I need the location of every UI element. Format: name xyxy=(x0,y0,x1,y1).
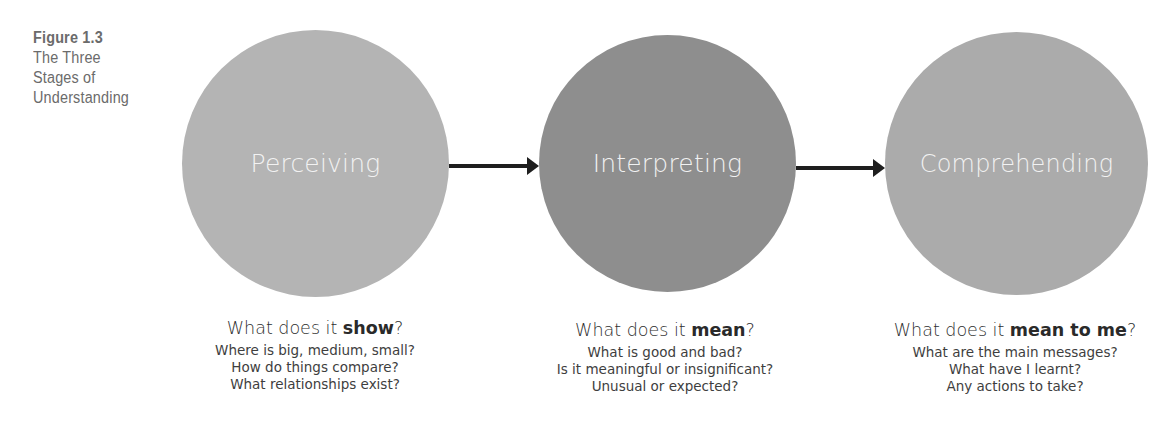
stage-detail: Unusual or expected? xyxy=(530,378,800,395)
stage-question: What does it mean to me? xyxy=(870,320,1160,340)
stage-question: What does it show? xyxy=(180,318,450,338)
stage-label: Interpreting xyxy=(593,149,743,178)
stage-detail: Any actions to take? xyxy=(870,378,1160,395)
question-suffix: ? xyxy=(746,320,755,340)
stage-circle-perceiving: Perceiving xyxy=(182,30,449,297)
question-emphasis: show xyxy=(343,318,394,338)
stage-detail: What is good and bad? xyxy=(530,344,800,361)
stage-label: Comprehending xyxy=(920,150,1113,178)
figure-title-line: The Three xyxy=(33,48,129,68)
stage-detail: How do things compare? xyxy=(180,359,450,376)
stage-questions-comprehending: What does it mean to me? What are the ma… xyxy=(870,320,1160,395)
stage-detail: What are the main messages? xyxy=(870,344,1160,361)
stage-circle-comprehending: Comprehending xyxy=(885,32,1148,295)
arrow-head xyxy=(873,159,885,177)
stage-circle-interpreting: Interpreting xyxy=(539,35,796,292)
figure-title-line: Understanding xyxy=(33,88,129,108)
question-prefix: What does it xyxy=(894,320,1010,340)
figure-label: Figure 1.3 xyxy=(33,28,129,48)
stage-detail: What relationships exist? xyxy=(180,376,450,393)
figure-title-line: Stages of xyxy=(33,68,129,88)
stage-detail: What have I learnt? xyxy=(870,361,1160,378)
arrow-shaft xyxy=(796,166,874,170)
arrow-shaft xyxy=(449,164,529,168)
question-emphasis: mean to me xyxy=(1010,320,1127,340)
question-suffix: ? xyxy=(1127,320,1136,340)
stage-questions-interpreting: What does it mean? What is good and bad?… xyxy=(530,320,800,395)
question-emphasis: mean xyxy=(691,320,745,340)
arrow-right-icon xyxy=(449,156,539,176)
stage-detail: Where is big, medium, small? xyxy=(180,342,450,359)
question-prefix: What does it xyxy=(227,318,343,338)
stage-detail: Is it meaningful or insignificant? xyxy=(530,361,800,378)
stage-question: What does it mean? xyxy=(530,320,800,340)
question-prefix: What does it xyxy=(575,320,691,340)
stage-label: Perceiving xyxy=(251,149,381,178)
arrow-head xyxy=(527,157,539,175)
stage-questions-perceiving: What does it show? Where is big, medium,… xyxy=(180,318,450,393)
question-suffix: ? xyxy=(394,318,403,338)
arrow-right-icon xyxy=(796,158,885,178)
figure-caption: Figure 1.3 The Three Stages of Understan… xyxy=(33,28,140,108)
